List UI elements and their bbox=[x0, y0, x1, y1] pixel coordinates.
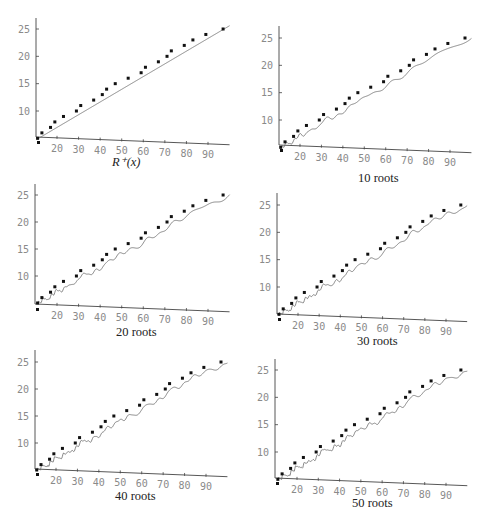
data-point bbox=[341, 269, 344, 272]
y-tick-label: 20 bbox=[18, 51, 30, 62]
x-tick-label: 40 bbox=[334, 486, 346, 497]
data-point bbox=[344, 429, 347, 432]
y-tick-label: 10 bbox=[261, 115, 273, 126]
data-point bbox=[289, 467, 292, 470]
y-tick-label: 20 bbox=[17, 384, 29, 395]
data-point bbox=[446, 42, 449, 45]
x-tick-label: 20 bbox=[292, 320, 304, 331]
data-point bbox=[459, 204, 462, 207]
data-point bbox=[302, 456, 305, 459]
data-point bbox=[383, 242, 386, 245]
data-point bbox=[105, 88, 108, 91]
caption-40-roots: 40 roots bbox=[115, 489, 156, 504]
data-point bbox=[290, 302, 293, 305]
x-tick-label: 20 bbox=[291, 484, 303, 495]
data-point bbox=[322, 113, 325, 116]
data-point bbox=[157, 226, 160, 229]
data-point bbox=[202, 366, 205, 369]
caption-50-roots: 50 roots bbox=[352, 496, 393, 511]
data-point bbox=[421, 385, 424, 388]
data-point bbox=[155, 393, 158, 396]
data-point bbox=[366, 253, 369, 256]
x-tick-label: 80 bbox=[179, 480, 191, 491]
y-tick-label: 10 bbox=[257, 447, 269, 458]
data-point bbox=[36, 302, 39, 305]
approximation-curve bbox=[37, 363, 228, 471]
data-point bbox=[62, 115, 65, 118]
x-tick-label: 70 bbox=[159, 314, 171, 325]
chart-10-roots: 101520252030405060708090 bbox=[243, 4, 486, 179]
data-point bbox=[421, 220, 424, 223]
data-point bbox=[40, 296, 43, 299]
x-tick-label: 20 bbox=[50, 475, 62, 486]
approximation-curve bbox=[281, 38, 472, 148]
y-tick-label: 10 bbox=[259, 282, 271, 293]
data-point bbox=[434, 47, 437, 50]
data-point bbox=[105, 253, 108, 256]
data-point bbox=[170, 49, 173, 52]
x-tick-label: 60 bbox=[137, 313, 149, 324]
data-point bbox=[75, 110, 78, 113]
y-tick-label: 25 bbox=[17, 190, 29, 201]
data-point bbox=[92, 264, 95, 267]
data-point bbox=[396, 236, 399, 239]
data-point bbox=[100, 425, 103, 428]
x-axis bbox=[35, 304, 230, 312]
data-point bbox=[404, 231, 407, 234]
data-point bbox=[296, 129, 299, 132]
data-point bbox=[332, 440, 335, 443]
data-point bbox=[74, 442, 77, 445]
x-tick-label: 50 bbox=[116, 312, 128, 323]
data-point bbox=[170, 215, 173, 218]
chart-rstar: 101520252030405060708090 bbox=[0, 0, 243, 175]
x-tick-label: 70 bbox=[159, 147, 171, 158]
x-tick-label: 50 bbox=[114, 477, 126, 488]
x-tick-label: 70 bbox=[398, 324, 410, 335]
plot-panel-50-roots: 101520252030405060708090 50 roots bbox=[243, 350, 486, 522]
data-point bbox=[464, 37, 467, 40]
data-point bbox=[61, 447, 64, 450]
x-tick-label: 80 bbox=[180, 315, 192, 326]
data-point bbox=[332, 275, 335, 278]
data-point bbox=[142, 398, 145, 401]
data-point bbox=[140, 237, 143, 240]
data-point bbox=[48, 458, 51, 461]
data-point bbox=[293, 461, 296, 464]
plot-panel-40-roots: 101520252030405060708090 40 roots bbox=[0, 345, 243, 520]
approximation-curve bbox=[38, 26, 230, 139]
y-tick-label: 20 bbox=[261, 60, 273, 71]
data-point bbox=[353, 423, 356, 426]
data-point bbox=[157, 60, 160, 63]
x-tick-label: 30 bbox=[313, 321, 325, 332]
data-point bbox=[222, 28, 225, 31]
x-tick-label: 50 bbox=[355, 322, 367, 333]
data-point bbox=[166, 55, 169, 58]
x-tick-label: 80 bbox=[180, 148, 192, 159]
x-tick-label: 30 bbox=[312, 485, 324, 496]
data-point bbox=[181, 377, 184, 380]
data-point bbox=[164, 388, 167, 391]
plot-panel-rstar: 101520252030405060708090 R⁺(x) bbox=[0, 0, 243, 175]
y-tick-label: 25 bbox=[259, 200, 271, 211]
data-point bbox=[335, 108, 338, 111]
x-tick-label: 70 bbox=[397, 488, 409, 499]
x-tick-label: 90 bbox=[440, 326, 452, 337]
y-tick-label: 25 bbox=[18, 24, 30, 35]
data-point bbox=[399, 69, 402, 72]
data-point bbox=[35, 469, 38, 472]
approximation-curve bbox=[279, 206, 467, 316]
data-point bbox=[345, 264, 348, 267]
data-point bbox=[144, 66, 147, 69]
x-tick-label: 30 bbox=[315, 152, 327, 163]
x-axis bbox=[36, 137, 230, 145]
plot-panel-10-roots: 101520252030405060708090 10 roots bbox=[243, 4, 486, 179]
data-point bbox=[49, 291, 52, 294]
data-point bbox=[356, 91, 359, 94]
y-tick-label: 15 bbox=[261, 87, 273, 98]
data-point bbox=[53, 285, 56, 288]
data-point bbox=[276, 478, 279, 481]
data-point bbox=[138, 404, 141, 407]
plot-panel-20-roots: 101520252030405060708090 20 roots bbox=[0, 175, 243, 350]
y-tick-label: 25 bbox=[257, 365, 269, 376]
data-point bbox=[191, 204, 194, 207]
